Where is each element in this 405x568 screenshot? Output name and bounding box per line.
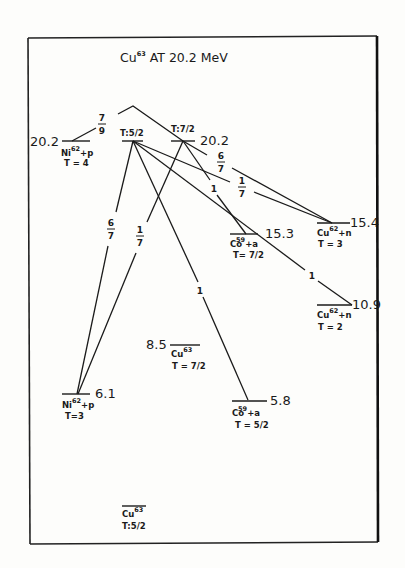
branching-ratio-1-7-left: 1 7 bbox=[136, 225, 144, 248]
level-isospin: T = 3 bbox=[318, 239, 343, 249]
level-energy: 20.2 bbox=[200, 133, 229, 148]
level-isospin: T = 2 bbox=[318, 322, 343, 332]
level-isospin: T = 5/2 bbox=[235, 420, 269, 430]
svg-text:7: 7 bbox=[239, 189, 245, 199]
level-nucleus: Co59+a bbox=[232, 405, 260, 418]
transition-t52-to-6.1-lower bbox=[77, 246, 108, 394]
level-nucleus: Co59+a bbox=[230, 236, 258, 249]
branching-ratio-1-to-5.8: 1 bbox=[197, 286, 203, 296]
branching-ratio-6-7-left: 6 7 bbox=[107, 218, 115, 241]
level-energy: 20.2 bbox=[30, 134, 59, 149]
branching-ratio-1-to-10.9: 1 bbox=[309, 271, 315, 281]
transition-t52-to-6.1-upper bbox=[116, 141, 133, 212]
transition-t52-to-5.8-lower bbox=[203, 297, 248, 400]
level-nucleus: Cu63 bbox=[171, 346, 192, 359]
level-energy: 10.9 bbox=[352, 297, 381, 312]
branching-ratio-6-7-right: 6 7 bbox=[217, 151, 225, 174]
level-isospin: T:7/2 bbox=[171, 124, 195, 134]
level-isospin: T:5/2 bbox=[122, 521, 146, 531]
level-energy: 5.8 bbox=[270, 393, 291, 408]
level-isospin: T:5/2 bbox=[120, 128, 144, 138]
branching-ratio-7-9: 7 9 bbox=[98, 113, 106, 136]
level-cu63-t52-top: T:5/2 bbox=[120, 128, 144, 141]
svg-text:7: 7 bbox=[99, 113, 105, 123]
transition-t72-to-15.4-lower bbox=[232, 168, 332, 223]
level-nucleus: Cu62+n bbox=[317, 307, 352, 320]
level-ni62p-t4: 20.2 Ni62+p T = 4 bbox=[30, 134, 93, 168]
isospin-decay-diagram: Cu63AT 20.2 MeV 7 9 bbox=[0, 0, 405, 568]
branching-ratio-1-7-right: 1 7 bbox=[238, 176, 246, 199]
svg-text:1: 1 bbox=[137, 225, 143, 235]
svg-text:7: 7 bbox=[137, 238, 143, 248]
level-cu63-t72-top: T:7/2 20.2 bbox=[171, 124, 229, 148]
svg-text:1: 1 bbox=[239, 176, 245, 186]
transition-ni62p-t4-to-t72 bbox=[72, 128, 96, 141]
level-energy: 15.4 bbox=[350, 215, 379, 230]
level-nucleus: Cu62+n bbox=[317, 225, 352, 238]
transition-lines bbox=[72, 106, 352, 400]
level-nucleus: Ni62+p bbox=[61, 145, 93, 158]
level-isospin: T= 7/2 bbox=[233, 250, 264, 260]
level-isospin: T = 7/2 bbox=[172, 361, 206, 371]
level-cu63-t72: 8.5 Cu63 T = 7/2 bbox=[146, 337, 206, 371]
svg-text:6: 6 bbox=[108, 218, 114, 228]
level-isospin: T=3 bbox=[65, 411, 84, 421]
svg-text:7: 7 bbox=[218, 164, 224, 174]
level-co59a-t52: 5.8 Co59+a T = 5/2 bbox=[232, 393, 291, 430]
svg-text:7: 7 bbox=[108, 231, 114, 241]
branching-ratio-1-to-15.3: 1 bbox=[211, 184, 217, 194]
level-cu63-ground: Cu63 T:5/2 bbox=[122, 506, 146, 531]
transition-t52-to-15.4-lower bbox=[254, 192, 332, 223]
transition-t52-to-5.8-upper bbox=[133, 141, 198, 282]
transition-t72-to-6.1-lower bbox=[78, 253, 136, 394]
level-energy: 8.5 bbox=[146, 337, 167, 352]
level-nucleus: Cu63 bbox=[122, 506, 143, 519]
svg-text:9: 9 bbox=[99, 126, 105, 136]
level-energy: 15.3 bbox=[265, 226, 294, 241]
level-energy: 6.1 bbox=[95, 386, 116, 401]
level-nucleus: Ni62+p bbox=[62, 397, 94, 410]
level-ni62p-t3: 6.1 Ni62+p T=3 bbox=[62, 386, 116, 421]
level-isospin: T = 4 bbox=[64, 158, 89, 168]
transition-t52-to-10.9-lower bbox=[318, 281, 352, 305]
diagram-title: Cu63AT 20.2 MeV bbox=[120, 50, 228, 65]
svg-text:6: 6 bbox=[218, 151, 224, 161]
